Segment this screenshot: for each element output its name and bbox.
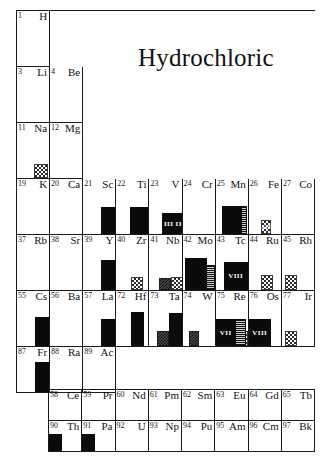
element-bar-solid: [35, 362, 49, 392]
element-cell-sm[interactable]: 62Sm: [182, 390, 215, 421]
element-bar-group: [116, 235, 148, 290]
element-symbol: Pm: [164, 390, 179, 401]
element-bar-check: [131, 277, 143, 290]
element-cell-pm[interactable]: 61Pm: [149, 390, 182, 421]
element-symbol: Ac: [101, 347, 114, 358]
element-cell-pu[interactable]: 94Pu: [182, 421, 215, 452]
element-cell-ta[interactable]: 73Ta: [149, 291, 182, 347]
element-cell-zr[interactable]: 40Zr: [116, 235, 149, 291]
periodic-table-main: 1H3Li4Be11Na12Mg19K20Ca21Sc22Ti23VIII II…: [16, 10, 315, 393]
element-cell-fr[interactable]: 87Fr: [17, 347, 50, 393]
element-cell-cm[interactable]: 96Cm: [249, 421, 282, 452]
element-cell-np[interactable]: 93Np: [149, 421, 182, 452]
element-cell-w[interactable]: 74W: [183, 291, 216, 347]
element-atomic-number: 63: [216, 390, 224, 399]
element-cell-ac[interactable]: 89Ac: [83, 347, 116, 393]
element-cell-cr[interactable]: 24Cr: [183, 179, 216, 235]
table-row: 11Na12Mg: [17, 123, 315, 179]
element-cell-be[interactable]: 4Be: [50, 67, 83, 123]
element-cell-empty: [149, 347, 182, 393]
element-symbol: Cr: [202, 179, 213, 190]
element-symbol: Ra: [68, 347, 80, 358]
element-symbol: Ce: [67, 390, 79, 401]
element-cell-pr[interactable]: 59Pr: [82, 390, 115, 421]
element-cell-os[interactable]: 76OsVIII: [249, 291, 282, 347]
element-cell-gd[interactable]: 64Gd: [249, 390, 282, 421]
element-symbol: Tb: [300, 390, 312, 401]
element-cell-ir[interactable]: 77Ir: [282, 291, 315, 347]
element-cell-eu[interactable]: 63Eu: [215, 390, 248, 421]
element-cell-sc[interactable]: 21Sc: [83, 179, 116, 235]
element-cell-ti[interactable]: 22Ti: [116, 179, 149, 235]
element-atomic-number: 19: [18, 179, 26, 188]
element-cell-y[interactable]: 39Y: [83, 235, 116, 291]
element-cell-ba[interactable]: 56Ba: [50, 291, 83, 347]
table-row: 37Rb38Sr39Y40Zr41Nb42Mo43TcVIII44Ru45Rh: [17, 235, 315, 291]
element-cell-k[interactable]: 19K: [17, 179, 50, 235]
element-cell-pa[interactable]: 91Pa: [82, 421, 115, 452]
element-cell-na[interactable]: 11Na: [17, 123, 50, 179]
element-cell-empty: [83, 11, 116, 67]
element-cell-empty: [116, 67, 149, 123]
element-cell-v[interactable]: 23VIII III: [149, 179, 182, 235]
element-cell-tb[interactable]: 65Tb: [282, 390, 315, 421]
element-cell-empty: [282, 11, 315, 67]
element-cell-li[interactable]: 3Li: [17, 67, 50, 123]
element-cell-bk[interactable]: 97Bk: [282, 421, 315, 452]
element-bar-dense: [157, 331, 169, 346]
element-cell-empty: [149, 123, 182, 179]
element-bar-group: [183, 235, 215, 290]
element-atomic-number: 93: [150, 421, 158, 430]
element-bar-solid: VII: [216, 319, 236, 346]
element-bar-label: VIII: [224, 272, 248, 280]
element-bar-dense: [159, 278, 171, 290]
element-cell-re[interactable]: 75ReVII: [216, 291, 249, 347]
element-bar-group: VIII: [249, 291, 281, 346]
element-atomic-number: 37: [18, 235, 26, 244]
element-cell-ru[interactable]: 44Ru: [249, 235, 282, 291]
element-cell-ca[interactable]: 20Ca: [50, 179, 83, 235]
element-cell-mg[interactable]: 12Mg: [50, 123, 83, 179]
element-cell-empty: [183, 67, 216, 123]
element-cell-empty: [216, 67, 249, 123]
element-atomic-number: 59: [83, 390, 91, 399]
element-cell-sr[interactable]: 38Sr: [50, 235, 83, 291]
element-cell-mo[interactable]: 42Mo: [183, 235, 216, 291]
element-symbol: Li: [37, 67, 47, 78]
element-bar-check: [34, 164, 48, 178]
element-cell-cs[interactable]: 55Cs: [17, 291, 50, 347]
element-symbol: Be: [68, 67, 80, 78]
element-cell-rh[interactable]: 45Rh: [282, 235, 315, 291]
element-atomic-number: 88: [51, 347, 59, 356]
element-cell-fe[interactable]: 26FeIII: [249, 179, 282, 235]
element-cell-mn[interactable]: 25Mn: [216, 179, 249, 235]
element-cell-hf[interactable]: 72Hf: [116, 291, 149, 347]
element-cell-th[interactable]: 90Th: [49, 421, 82, 452]
element-cell-co[interactable]: 27Co: [282, 179, 315, 235]
element-bar-group: III: [249, 179, 281, 234]
element-cell-rb[interactable]: 37Rb: [17, 235, 50, 291]
element-cell-u[interactable]: 92U: [116, 421, 149, 452]
element-cell-am[interactable]: 95Am: [215, 421, 248, 452]
element-symbol: Eu: [233, 390, 245, 401]
element-cell-la[interactable]: 57La: [83, 291, 116, 347]
periodic-table-f-block: 58Ce59Pr60Nd61Pm62Sm63Eu64Gd65Tb90Th91Pa…: [48, 389, 315, 452]
element-cell-nb[interactable]: 41Nb: [149, 235, 182, 291]
element-cell-tc[interactable]: 43TcVIII: [216, 235, 249, 291]
element-cell-nd[interactable]: 60Nd: [116, 390, 149, 421]
element-bar-check: [285, 331, 297, 346]
element-atomic-number: 58: [50, 390, 58, 399]
element-bar-check: [285, 275, 297, 290]
table-row: 1H: [17, 11, 315, 67]
element-bar-dense: [189, 331, 199, 346]
element-symbol: Cm: [263, 421, 279, 432]
element-cell-empty: [50, 11, 83, 67]
element-bar-group: [249, 235, 281, 290]
element-atomic-number: 1: [18, 11, 22, 20]
element-atomic-number: 61: [150, 390, 158, 399]
element-cell-empty: [116, 11, 149, 67]
element-cell-ra[interactable]: 88Ra: [50, 347, 83, 393]
element-bar-solid: [82, 434, 95, 451]
element-cell-ce[interactable]: 58Ce: [49, 390, 82, 421]
element-cell-h[interactable]: 1H: [17, 11, 50, 67]
